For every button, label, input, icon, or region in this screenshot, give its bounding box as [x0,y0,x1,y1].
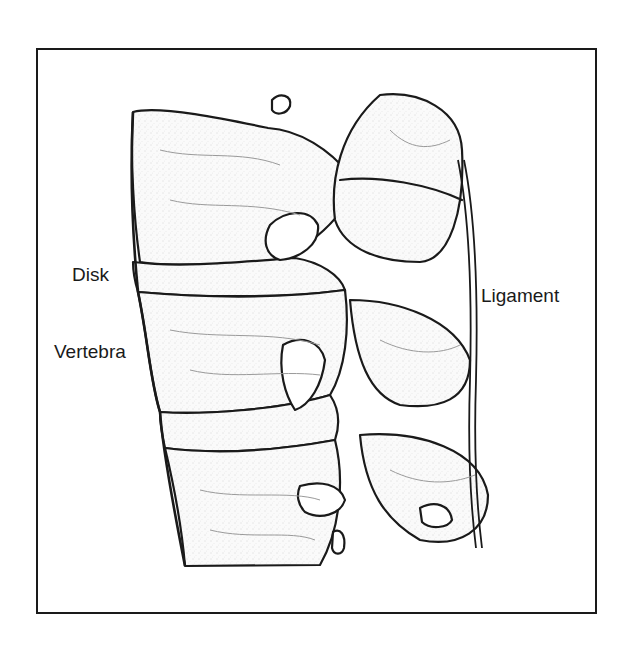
middle-spinous-process [350,300,470,406]
top-opening [272,95,290,113]
disk [133,258,345,296]
label-vertebra: Vertebra [54,342,126,361]
spine-illustration [0,0,635,653]
lower-foramen [298,483,345,515]
label-ligament: Ligament [481,286,559,305]
label-disk: Disk [72,265,109,284]
upper-vertebra [132,110,350,264]
